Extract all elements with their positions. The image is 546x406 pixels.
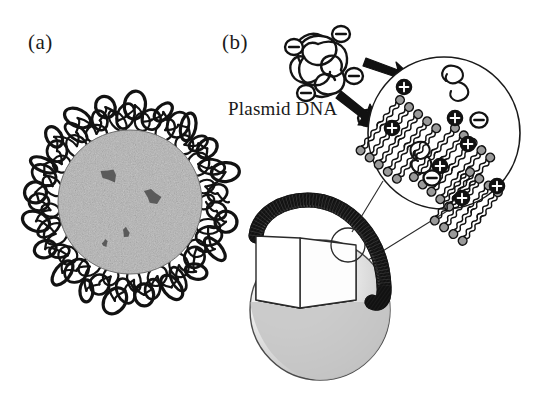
plus-charge-icon (454, 190, 469, 205)
minus-charge-icon (423, 170, 440, 185)
plus-charge-icon (396, 79, 411, 94)
minus-charge-icon (285, 39, 303, 55)
liposome-sphere (250, 200, 392, 381)
figure-container: (a) (b) Plasmid DNA (0, 0, 546, 406)
figure-canvas (0, 0, 546, 406)
plus-charge-icon (460, 136, 475, 151)
panel-b-graphic (250, 26, 520, 381)
plus-charge-icon (384, 120, 399, 135)
minus-charge-icon (470, 112, 487, 127)
minus-charge-icon (297, 85, 315, 101)
panel-a-graphic (20, 90, 241, 319)
plus-charge-icon (489, 178, 504, 193)
minus-charge-icon (345, 68, 363, 84)
minus-charge-icon (332, 26, 350, 42)
plus-charge-icon (447, 110, 462, 125)
